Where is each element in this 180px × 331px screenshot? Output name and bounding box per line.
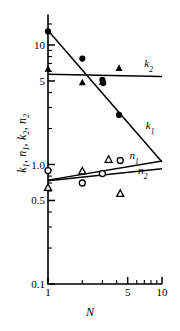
x-tick-label: 10 — [157, 286, 169, 298]
y-axis-title-text: k1, n1, k2, n2 — [15, 114, 29, 173]
x-tick-label: 5 — [125, 286, 131, 298]
y-tick-labels: 0.10.51.0510 — [31, 39, 45, 290]
figure-container: 1510 0.10.51.0510 k1k2n1n2 k1, n1, k2, n… — [0, 0, 180, 331]
fit-lines — [48, 31, 162, 181]
axis-lines — [48, 14, 162, 284]
data-markers — [45, 28, 124, 196]
x-axis-title-text: N — [86, 305, 94, 319]
curve-labels: k1k2n1n2 — [130, 57, 155, 180]
series-n2 — [45, 156, 124, 197]
x-tick-label: 1 — [45, 286, 51, 298]
y-tick-label: 0.1 — [31, 278, 45, 290]
x-axis-ticks — [48, 277, 162, 284]
curve-label-k1: k1 — [146, 119, 155, 136]
fit-line-k1 — [48, 31, 162, 162]
y-axis-ticks — [48, 24, 55, 284]
x-tick-labels: 1510 — [45, 286, 168, 298]
y-tick-label: 1.0 — [31, 159, 45, 171]
fit-line-k2 — [48, 74, 162, 76]
series-k1 — [45, 28, 122, 118]
y-tick-label: 5 — [40, 75, 46, 87]
y-tick-label: 10 — [34, 39, 46, 51]
y-axis-title: k1, n1, k2, n2 — [15, 73, 31, 213]
curve-label-n2: n2 — [138, 164, 148, 181]
x-axis-title: N — [0, 305, 180, 320]
y-tick-label: 0.5 — [31, 194, 45, 206]
curve-label-k2: k2 — [144, 57, 153, 74]
